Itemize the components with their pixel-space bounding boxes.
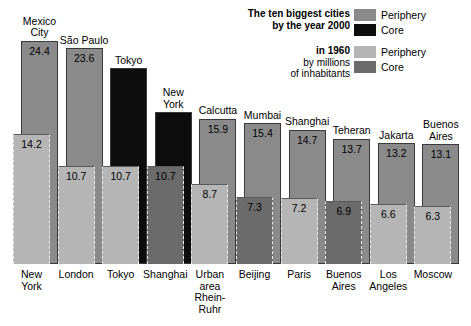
bar-value-1960: 6.9 <box>326 205 361 217</box>
legend-keys-1960: Periphery Core <box>354 45 426 75</box>
bar-1960-buenos-aires: 6.9 <box>325 201 362 264</box>
bar-1960-los-angeles: 6.6 <box>370 204 407 264</box>
bar-value-2000: 24.4 <box>22 45 57 57</box>
city-label-2000: São Paulo <box>58 35 111 47</box>
axis-label-1960: LosAngeles <box>363 269 414 292</box>
chart-container: 24.4MexicoCity14.2NewYork23.6São Paulo10… <box>0 0 471 326</box>
axis-label-1960: UrbanareaRhein-Ruhr <box>184 269 235 315</box>
bar-value-2000: 23.6 <box>67 52 102 64</box>
legend-row-periphery-2000: Periphery <box>354 8 426 22</box>
legend-row-core-1960: Core <box>354 60 426 74</box>
legend-swatch-core-1960 <box>354 61 376 73</box>
axis-label-1960: BuenosAires <box>318 269 369 292</box>
city-label-2000: Tokyo <box>102 55 155 67</box>
bar-1960-tokyo: 10.7 <box>102 166 139 264</box>
bar-value-2000: 13.1 <box>423 148 458 160</box>
axis-label-1960: Beijing <box>229 269 280 281</box>
legend-label-core-1960: Core <box>381 61 404 73</box>
axis-label-1960: Moscow <box>407 269 458 281</box>
legend-title-1960-line1: in 1960 <box>228 45 350 57</box>
axis-label-1960: Shanghai <box>140 269 191 281</box>
bar-value-1960: 14.2 <box>14 138 49 150</box>
axis-label-1960: London <box>51 269 102 281</box>
bar-value-1960: 6.6 <box>371 208 406 220</box>
legend-title-2000: The ten biggest cities by the year 2000 <box>228 8 350 31</box>
axis-label-1960: Tokyo <box>95 269 146 281</box>
bar-value-1960: 10.7 <box>59 170 94 182</box>
legend-group-1960: in 1960 by millions of inhabitants Perip… <box>228 45 466 80</box>
legend-title-1960-line3: of inhabitants <box>228 68 350 80</box>
legend-title-1960: in 1960 by millions of inhabitants <box>228 45 350 80</box>
legend-keys-2000: Periphery Core <box>354 8 426 38</box>
bar-value-2000: 13.7 <box>334 143 369 155</box>
legend-swatch-periphery-2000 <box>354 9 376 21</box>
bar-1960-urban-area-rhein-ruhr: 8.7 <box>191 184 228 264</box>
bar-value-1960: 6.3 <box>415 210 450 222</box>
legend-row-core-2000: Core <box>354 23 426 37</box>
bar-1960-beijing: 7.3 <box>236 197 273 264</box>
bar-value-1960: 10.7 <box>148 170 183 182</box>
legend-label-periphery-1960: Periphery <box>381 46 426 58</box>
legend-swatch-core-2000 <box>354 24 376 36</box>
axis-label-1960: NewYork <box>6 269 57 292</box>
bar-1960-new-york: 14.2 <box>13 134 50 264</box>
axis-label-1960: Paris <box>274 269 325 281</box>
bar-1960-shanghai: 10.7 <box>147 166 184 264</box>
legend-title-2000-line1: The ten biggest cities <box>228 8 350 20</box>
bar-value-1960: 10.7 <box>103 170 138 182</box>
bar-value-2000: 13.2 <box>379 147 414 159</box>
bar-1960-moscow: 6.3 <box>414 206 451 264</box>
legend-title-1960-line2: by millions <box>228 57 350 69</box>
legend-label-periphery-2000: Periphery <box>381 9 426 21</box>
legend-title-2000-line2: by the year 2000 <box>228 20 350 32</box>
bar-value-2000: 15.9 <box>200 123 235 135</box>
legend-swatch-periphery-1960 <box>354 46 376 58</box>
bar-value-1960: 7.2 <box>282 202 317 214</box>
bar-value-2000: 14.7 <box>290 134 325 146</box>
bar-value-1960: 8.7 <box>192 188 227 200</box>
bar-1960-paris: 7.2 <box>281 198 318 264</box>
bar-1960-london: 10.7 <box>58 166 95 264</box>
chart-legend: The ten biggest cities by the year 2000 … <box>228 8 466 87</box>
bar-value-2000: 15.4 <box>245 127 280 139</box>
legend-row-periphery-1960: Periphery <box>354 45 426 59</box>
legend-label-core-2000: Core <box>381 24 404 36</box>
legend-group-2000: The ten biggest cities by the year 2000 … <box>228 8 466 38</box>
city-label-2000: BuenosAires <box>414 119 467 142</box>
bar-value-1960: 7.3 <box>237 201 272 213</box>
